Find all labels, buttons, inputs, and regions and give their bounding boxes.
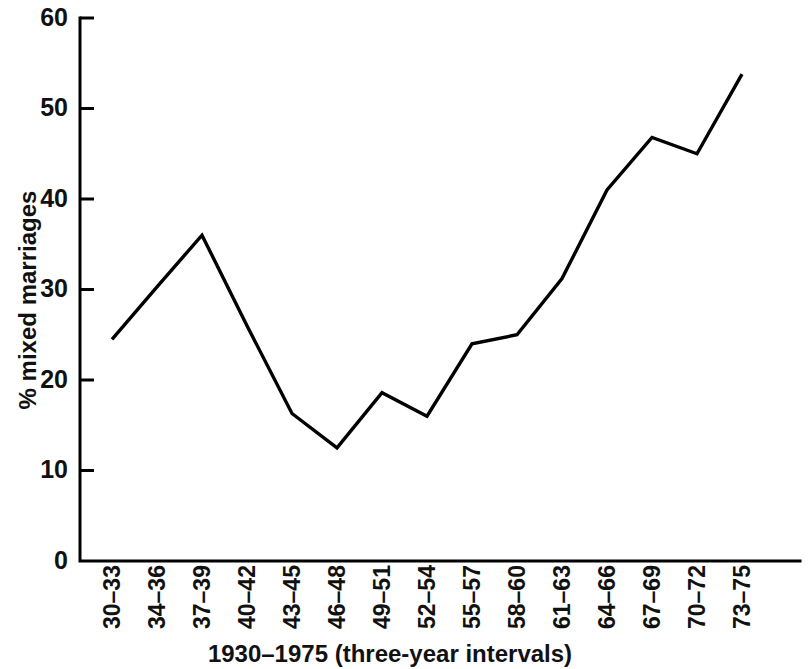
y-axis-tick-label: 30 [40, 274, 68, 302]
x-axis-tick-label: 73–75 [729, 565, 755, 629]
x-axis-tick-label: 64–66 [594, 565, 620, 629]
x-axis-tick-label: 30–33 [99, 565, 125, 629]
x-axis-title: 1930–1975 (three-year intervals) [208, 640, 572, 667]
y-axis-tick-label: 0 [54, 546, 68, 574]
x-axis-tick-label: 52–54 [414, 565, 440, 629]
x-axis-tick-label: 43–45 [279, 565, 305, 629]
y-axis-tick-label: 60 [40, 3, 68, 31]
x-axis-tick-label: 61–63 [549, 565, 575, 629]
x-axis-tick-label: 34–36 [144, 565, 170, 629]
y-axis-title: % mixed marriages [14, 191, 41, 410]
x-axis-tick-label: 37–39 [189, 565, 215, 629]
chart-figure: 0102030405060 30–3334–3637–3940–4243–454… [0, 0, 812, 669]
x-axis-tick-label: 58–60 [504, 565, 530, 629]
y-axis-tick-label: 50 [40, 93, 68, 121]
line-chart-canvas: 0102030405060 30–3334–3637–3940–4243–454… [0, 0, 812, 669]
x-axis-tick-label: 49–51 [369, 565, 395, 629]
x-axis-tick-label: 67–69 [639, 565, 665, 629]
x-axis-tick-label: 70–72 [684, 565, 710, 629]
x-axis-tick-labels: 30–3334–3637–3940–4243–4546–4849–5152–54… [99, 565, 755, 629]
x-axis-tick-label: 55–57 [459, 565, 485, 629]
y-axis-tick-label: 20 [40, 365, 68, 393]
y-axis-tick-label: 10 [40, 455, 68, 483]
x-axis-tick-label: 40–42 [234, 565, 260, 629]
x-axis-tick-label: 46–48 [324, 565, 350, 629]
y-axis-tick-label: 40 [40, 184, 68, 212]
